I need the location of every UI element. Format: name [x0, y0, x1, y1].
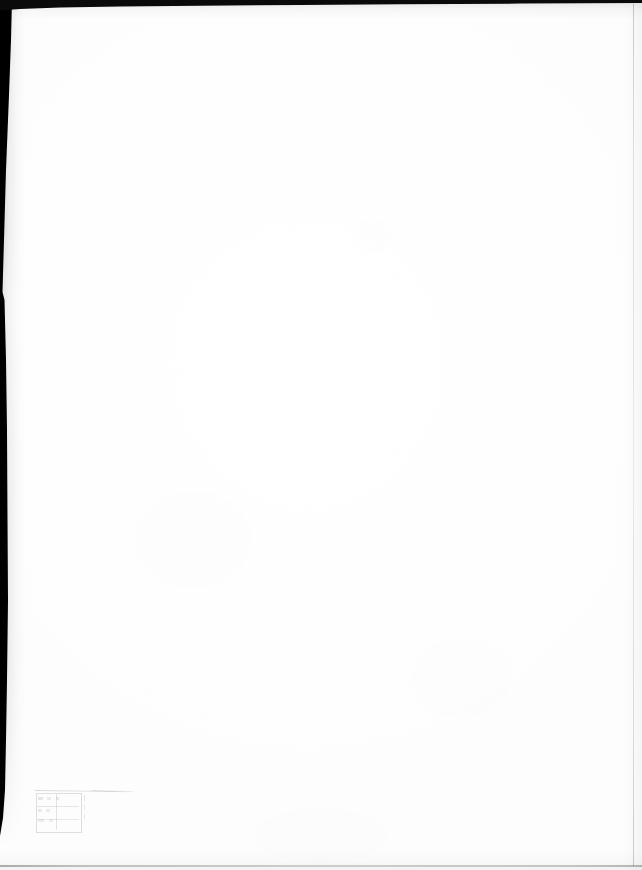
paper-grain-texture: [0, 0, 642, 870]
bottom-edge-haze: [0, 848, 642, 870]
right-edge-haze: [620, 0, 642, 870]
stamp-illegible-glyphs: [38, 795, 78, 829]
stamp-caption-text: [36, 781, 136, 788]
bottom-edge-rule: [0, 865, 642, 867]
stamp-impression: [34, 781, 138, 834]
scanned-page: [0, 0, 642, 870]
stamp-tick-marks: [84, 795, 92, 819]
right-edge-rule: [633, 4, 634, 866]
